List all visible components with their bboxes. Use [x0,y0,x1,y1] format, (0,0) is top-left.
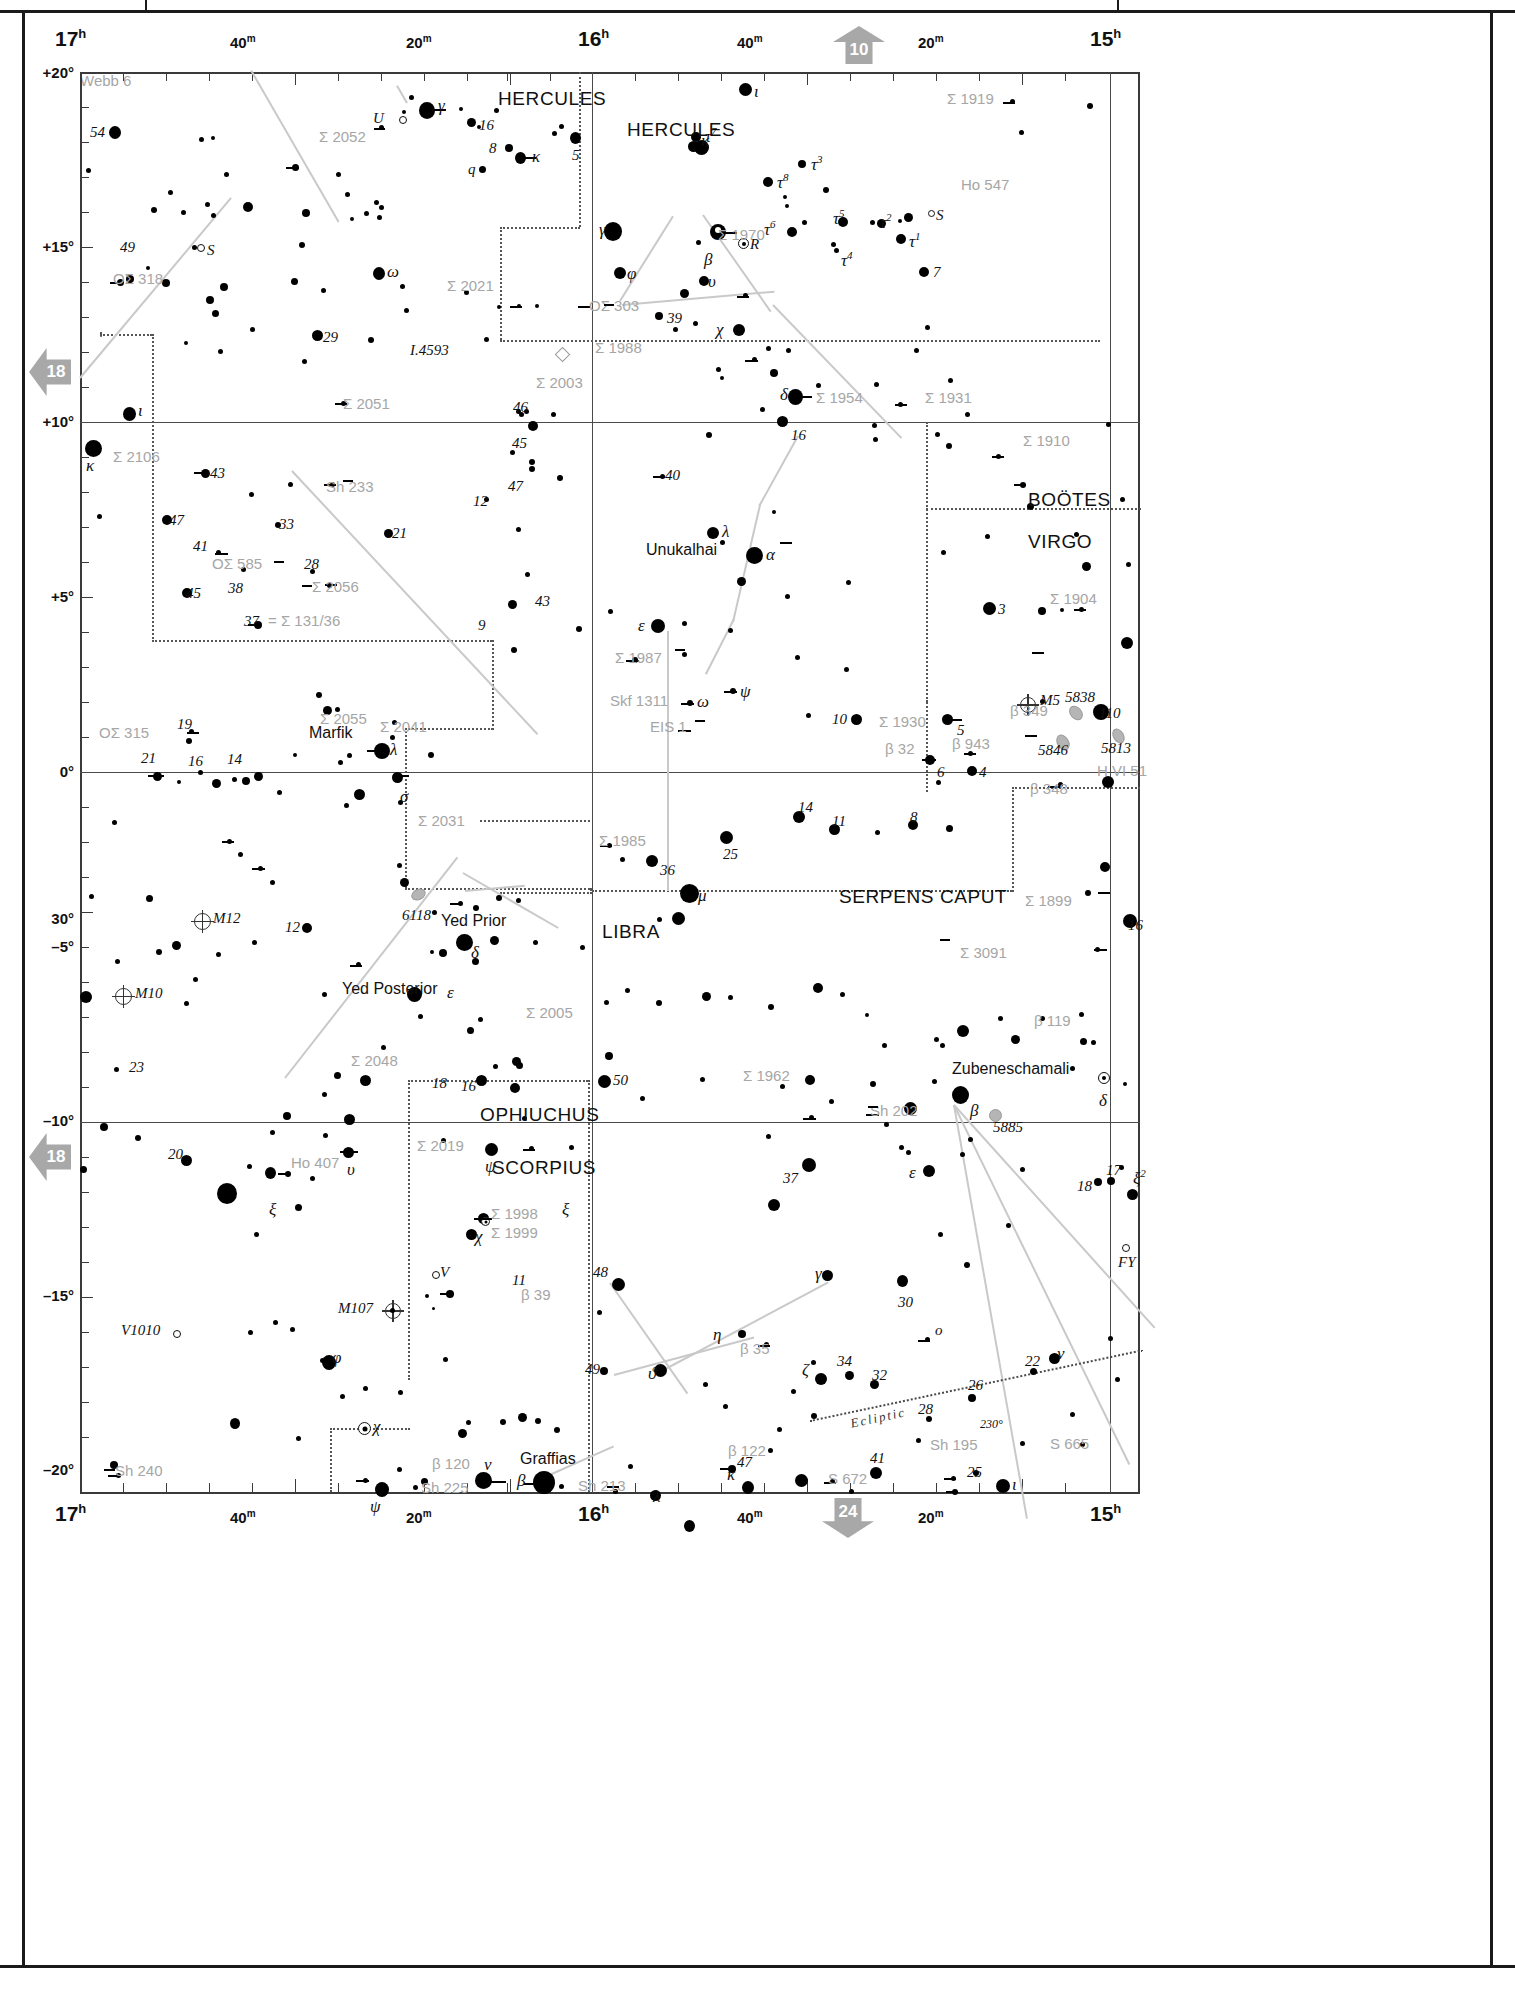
nav-down-label: 24 [839,1502,858,1522]
grey-label-skf1311: Skf 1311 [610,692,668,709]
star [700,1077,705,1082]
star [302,209,310,217]
nav-arrow-up[interactable]: 10 [833,26,885,64]
flamsteed-S-ser: S [936,207,944,224]
star [723,1404,728,1409]
star-34-lib [845,1371,854,1380]
dso-label-6118: 6118 [402,907,431,924]
stick-ser-beta-delta [772,304,902,438]
star-26-lib [968,1394,976,1402]
stick-her-1 [79,197,232,378]
star [608,609,613,614]
flamsteed-12-ser: 12 [473,493,488,510]
grey-label-sigma2005: Σ 2005 [526,1004,573,1021]
star-FY-var [1122,1244,1130,1252]
dec-label-p10: +10° [26,413,74,430]
greek-label-tau6: τ6 [764,218,776,240]
star [628,1464,633,1469]
flamsteed-4-ser: 4 [979,764,987,781]
greek-label-beta-sco: β [517,1471,525,1491]
ra-label-bottom-40m-b: 40m [737,1508,763,1526]
star [1091,1040,1096,1045]
star-epsilon-ser [651,619,665,633]
star [230,1418,240,1429]
boundary-lib-a [500,892,592,894]
double-marker [948,719,962,721]
star [870,220,875,225]
greek-label-theta-lib: ϑ [648,1364,656,1384]
nav-arrow-left-upper[interactable]: 18 [29,348,71,396]
grey-label-sigma2019: Σ 2019 [417,1137,464,1154]
nav-arrow-down[interactable]: 24 [822,1498,874,1538]
star-19-oph [186,738,192,744]
double-marker [486,1481,506,1483]
nav-up-label: 10 [850,40,869,60]
flamsteed-19-oph: 19 [177,716,192,733]
grey-label-sigma2003: Σ 2003 [536,374,583,391]
star [381,1045,386,1050]
grid-line-dec-m10 [80,1122,1140,1123]
star-tau1-ser [896,234,906,244]
ra-label-bottom-20m-a: 20m [406,1508,432,1526]
flamsteed-18-sco: 18 [432,1075,447,1092]
star [1070,1412,1075,1417]
nav-arrow-left-lower[interactable]: 18 [29,1133,71,1181]
star [368,337,374,343]
star [336,172,341,177]
star [216,952,221,957]
ra-label-bottom-15h: 15h [1090,1501,1121,1526]
star [500,1419,506,1425]
star-5-her [570,132,581,144]
star [875,830,880,835]
dec-label-extra-30: 30° [20,910,74,927]
double-marker [474,1218,492,1220]
star [728,995,733,1000]
greek-label-tau4: τ4 [841,249,853,271]
grid-line-dec-p10 [80,422,1140,423]
greek-label-chi-sco: χ [475,1227,482,1247]
star [899,1145,904,1150]
star [400,878,409,887]
flamsteed-12-oph: 12 [285,919,300,936]
star [965,412,970,417]
page-frame-left [22,10,25,1968]
boundary-oph-b [100,334,152,336]
greek-label-psi-ser: ψ [740,682,751,702]
star [146,895,153,902]
star [806,713,811,718]
double-marker [964,753,976,755]
grey-label-sigma1954: Σ 1954 [816,389,863,406]
star [439,949,447,957]
double-marker [194,472,206,474]
double-marker [524,1483,544,1485]
flamsteed-S-her: S [207,242,215,259]
double-marker [450,903,462,905]
star [321,288,326,293]
star [192,245,197,250]
star [516,1062,523,1069]
greek-label-upsilon-oph: υ [347,1160,355,1180]
grey-label-sigma3091: Σ 3091 [960,944,1007,961]
star [322,992,327,997]
grey-label-ho547: Ho 547 [961,176,1009,193]
grey-label-s672: S 672 [828,1470,867,1487]
grey-label-s665: S 665 [1050,1435,1089,1452]
flamsteed-28-oph: 28 [304,556,319,573]
greek-label-epsilon-lib: ε [909,1163,916,1183]
star [870,1081,876,1087]
star-12-oph [302,923,312,933]
arrow-marker [868,1106,878,1108]
greek-label-chi-ser: χ [716,320,723,340]
double-marker [1094,949,1107,951]
flamsteed-16-her: 16 [479,117,494,134]
flamsteed-7-ser: 7 [933,264,941,281]
star [344,1114,355,1125]
star [322,1092,327,1097]
star [224,172,229,177]
double-marker [350,965,362,967]
star [288,482,293,487]
star [379,205,384,210]
star [696,240,701,245]
star [672,912,685,925]
star [80,991,92,1003]
